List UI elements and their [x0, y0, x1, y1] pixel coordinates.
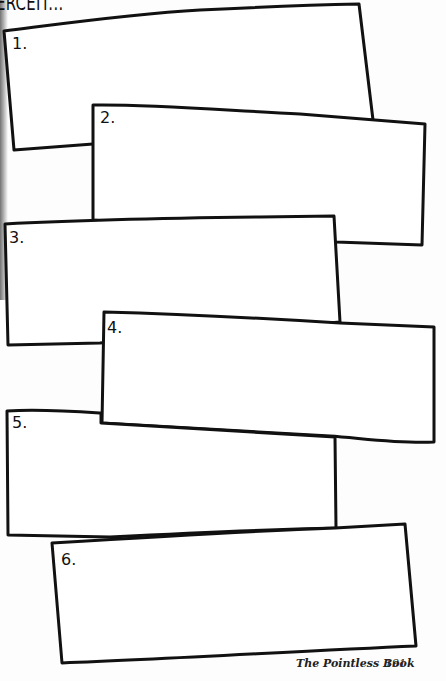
page-number: 191: [385, 657, 406, 670]
box-4-label: 4.: [107, 318, 122, 337]
writing-boxes: [0, 0, 446, 681]
box-3-label: 3.: [9, 228, 24, 247]
writing-box-6[interactable]: [52, 524, 416, 663]
box-2-label: 2.: [100, 108, 115, 127]
box-5-label: 5.: [12, 413, 27, 432]
box-1-label: 1.: [12, 34, 27, 53]
writing-box-4[interactable]: [102, 312, 434, 442]
box-6-label: 6.: [61, 550, 76, 569]
book-page: ERCEIT... 1. 2. 3. 4. 5. 6. The Pointles…: [0, 0, 446, 681]
